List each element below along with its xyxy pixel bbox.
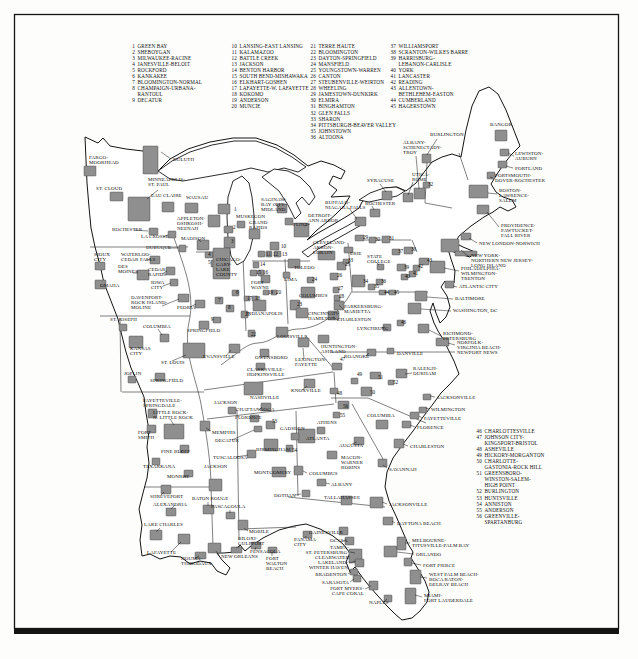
map-place-label: PENSACOLA bbox=[250, 549, 281, 554]
metro-region bbox=[247, 450, 256, 458]
legend-column-2: 10LANSING-EAST LANSING11KALAMAZOO12BATTL… bbox=[228, 43, 309, 110]
map-metro-number: 6 bbox=[236, 289, 239, 295]
map-place-label: ALEXANDRIA bbox=[153, 502, 187, 507]
map-metro-number: 51 bbox=[378, 374, 384, 380]
legend-entry-number: 20 bbox=[228, 103, 240, 109]
map-metro-number: 45 bbox=[394, 289, 400, 295]
metro-region bbox=[128, 197, 150, 221]
metro-region bbox=[394, 439, 404, 448]
metro-region bbox=[445, 281, 454, 288]
legend-entry-number: 8 bbox=[126, 85, 138, 91]
metro-region bbox=[387, 348, 394, 354]
map-place-label: TAMPA-ST. PETERSBURG-CLEARWATER bbox=[306, 545, 350, 560]
map-place-label: INDIANAPOLIS bbox=[246, 311, 283, 316]
map-place-label: LYNCHBURG bbox=[357, 326, 389, 331]
map-metro-number: 27 bbox=[338, 285, 344, 291]
map-place-label: SARASOTA bbox=[322, 580, 349, 585]
map-metro-number: 44 bbox=[384, 289, 390, 295]
map-place-label: LOUISVILLE bbox=[277, 334, 307, 339]
map-metro-number: 14 bbox=[260, 261, 266, 267]
map-metro-number: 34 bbox=[363, 278, 369, 284]
metro-region bbox=[224, 226, 233, 233]
metro-region bbox=[408, 303, 421, 314]
map-place-label: CHARLESTON bbox=[337, 317, 371, 322]
map-place-label: LAKELAND-WINTER HAVEN bbox=[309, 560, 348, 570]
map-place-label: LAFAYETTE bbox=[147, 550, 176, 555]
map-place-label: CEDARRAPIDS bbox=[148, 267, 167, 277]
map-place-label: CHARLESTON bbox=[410, 444, 444, 449]
metro-region bbox=[397, 537, 406, 550]
map-place-label: NASHVILLE bbox=[250, 395, 279, 400]
map-place-label: PANAMACITY bbox=[294, 537, 316, 547]
label-leader-line bbox=[161, 152, 171, 159]
map-metro-number: 33 bbox=[348, 257, 354, 263]
metro-region bbox=[162, 202, 174, 212]
metro-region bbox=[318, 335, 329, 343]
metro-region bbox=[161, 485, 171, 494]
map-place-label: BALTIMORE bbox=[455, 296, 485, 301]
legend-entry-label: DECATUR bbox=[138, 97, 163, 103]
legend-entry-number: 51 bbox=[473, 470, 485, 476]
metro-region bbox=[355, 559, 364, 567]
metro-region bbox=[164, 424, 184, 439]
metro-region bbox=[166, 267, 175, 275]
map-place-label: WEST PALM BEACH-BOCA RATON-DELRAY BEACH bbox=[429, 572, 479, 587]
map-metro-number: 52 bbox=[393, 379, 399, 385]
map-place-label: PROVIDENCE-PAWTUCKET-FALL RIVER bbox=[501, 223, 536, 238]
map-metro-number: 32 bbox=[428, 181, 434, 187]
metro-region bbox=[150, 530, 162, 540]
map-place-label: PASCAGOULA bbox=[211, 504, 246, 509]
map-place-label: JACKSONVILLE bbox=[437, 395, 475, 400]
map-metro-number: 18 bbox=[255, 295, 261, 301]
map-place-label: FAYETTEVILLE bbox=[424, 416, 461, 421]
map-metro-number: 2 bbox=[233, 224, 236, 230]
map-metro-number: 23 bbox=[297, 301, 303, 307]
map-metro-number: 5 bbox=[208, 259, 211, 265]
map-place-label: CLARKSVILLE-HOPKINSVILLE bbox=[247, 367, 285, 377]
map-metro-number: 22 bbox=[251, 331, 257, 337]
map-place-label: DOTHAN bbox=[274, 493, 296, 498]
metro-region bbox=[249, 229, 260, 239]
metro-region bbox=[353, 575, 361, 582]
map-place-label: MADISON bbox=[181, 236, 205, 241]
legend-entry-number: 47 bbox=[473, 434, 485, 440]
metro-region bbox=[415, 291, 427, 301]
map-metro-number: 55 bbox=[340, 412, 346, 418]
metro-region bbox=[244, 382, 263, 395]
legend-entry-number: 45 bbox=[387, 103, 399, 109]
map-place-label: LIMA bbox=[284, 277, 298, 282]
legend-entry-number: 43 bbox=[387, 85, 399, 91]
map-metro-number: 11 bbox=[266, 251, 271, 257]
map-place-label: BRADENTON bbox=[315, 572, 347, 577]
metro-region bbox=[294, 466, 303, 475]
map-place-label: COLUMBUS bbox=[299, 293, 328, 298]
map-metro-number: 20 bbox=[276, 289, 282, 295]
metro-region bbox=[441, 239, 459, 252]
map-place-label: IOWACITY bbox=[151, 280, 165, 290]
metro-region bbox=[430, 261, 445, 273]
map-metro-number: 54 bbox=[292, 447, 298, 453]
map-metro-number: 40 bbox=[405, 273, 411, 279]
metro-region bbox=[178, 294, 189, 302]
metro-region bbox=[185, 203, 198, 213]
map-place-label: KNOXVILLE bbox=[291, 388, 321, 393]
map-metro-number: 37 bbox=[398, 248, 404, 254]
map-place-label: LAKE CHARLES bbox=[144, 522, 183, 527]
map-metro-number: 36 bbox=[381, 278, 387, 284]
metro-region bbox=[84, 166, 96, 176]
map-place-label: WAUSAU bbox=[186, 195, 208, 200]
map-place-label: MONROE bbox=[167, 474, 189, 479]
map-place-label: ST. CLOUD bbox=[96, 186, 123, 191]
map-metro-number: 8 bbox=[228, 304, 231, 310]
metro-region bbox=[119, 324, 127, 331]
map-metro-number: 46 bbox=[401, 319, 407, 325]
map-place-label: PEORIA bbox=[177, 305, 196, 310]
map-place-label: ALBANY-SCHENECTADY-TROY bbox=[403, 140, 442, 155]
metro-region bbox=[302, 490, 310, 497]
metro-region bbox=[423, 394, 431, 400]
legend-entry: 43ALLENTOWN-BETHLEHEM-EASTON bbox=[387, 85, 468, 97]
map-place-label: FORTWALTONBEACH bbox=[266, 556, 288, 571]
map-place-label: OMAHA bbox=[100, 283, 120, 288]
legend-entry-label: GREENSBORO-WINSTON-SALEM-HIGH POINT bbox=[485, 470, 531, 488]
map-place-label: COLUMBIA bbox=[143, 324, 171, 329]
